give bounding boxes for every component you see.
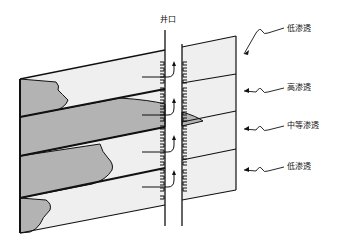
layer-1-label: 低渗透 xyxy=(287,25,311,33)
well-head-label: 井口 xyxy=(160,16,176,24)
layer-2-label: 高渗透 xyxy=(287,84,311,92)
reservoir-diagram: 井口 低渗透 高渗透 中等渗透 低渗透 xyxy=(0,0,341,248)
leader-arrowheads xyxy=(244,50,249,172)
label-leaders xyxy=(244,28,284,172)
wellbore xyxy=(165,30,182,226)
layer-3-label: 中等渗透 xyxy=(287,122,319,130)
arrow-heads xyxy=(172,61,176,175)
layer-4-label: 低渗透 xyxy=(287,163,311,171)
